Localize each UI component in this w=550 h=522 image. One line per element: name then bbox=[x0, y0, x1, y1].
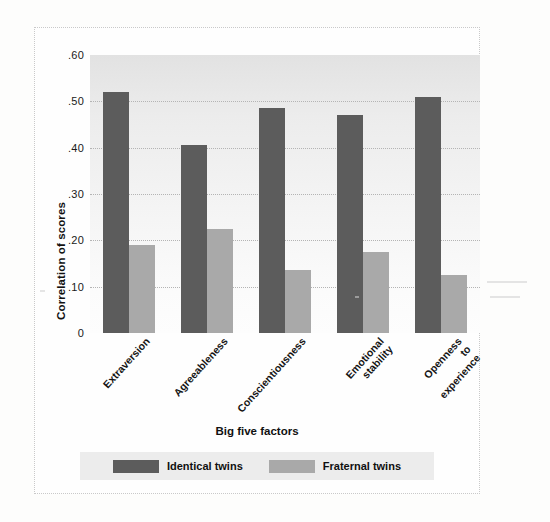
y-tick-label: 0 bbox=[78, 327, 84, 339]
x-tick-label: Extraversion bbox=[100, 335, 152, 391]
bar-identical-twins[interactable] bbox=[259, 108, 285, 333]
scan-artifact bbox=[355, 296, 359, 298]
bar-fraternal-twins[interactable] bbox=[207, 229, 233, 333]
scanned-page: Correlation of scores 0.10.20.30.40.50.6… bbox=[0, 0, 550, 522]
bar-group bbox=[259, 55, 311, 333]
y-axis-title: Correlation of scores bbox=[55, 186, 67, 336]
bar-chart: Correlation of scores 0.10.20.30.40.50.6… bbox=[34, 27, 480, 494]
bar-fraternal-twins[interactable] bbox=[363, 252, 389, 333]
legend-swatch-fraternal-twins bbox=[269, 460, 315, 473]
y-axis: Correlation of scores 0.10.20.30.40.50.6… bbox=[34, 27, 90, 494]
scan-artifact bbox=[40, 290, 45, 292]
bar-identical-twins[interactable] bbox=[181, 145, 207, 333]
legend-label-identical-twins: Identical twins bbox=[167, 460, 243, 472]
y-tick-label: .20 bbox=[68, 234, 84, 246]
scan-artifact bbox=[490, 296, 520, 298]
y-tick-label: .40 bbox=[68, 142, 84, 154]
bar-fraternal-twins[interactable] bbox=[129, 245, 155, 333]
plot-area bbox=[90, 55, 480, 333]
bar-identical-twins[interactable] bbox=[337, 115, 363, 333]
y-tick-label: .50 bbox=[68, 95, 84, 107]
legend-swatch-identical-twins bbox=[113, 460, 159, 473]
bar-group bbox=[103, 55, 155, 333]
x-axis-labels: ExtraversionAgreeablenessConscientiousne… bbox=[90, 333, 480, 423]
bar-fraternal-twins[interactable] bbox=[441, 275, 467, 333]
bar-group bbox=[337, 55, 389, 333]
chart-legend: Identical twins Fraternal twins bbox=[80, 452, 434, 480]
x-tick-label: Conscientiousness bbox=[235, 335, 309, 415]
legend-item-identical-twins: Identical twins bbox=[113, 460, 243, 473]
x-axis-title: Big five factors bbox=[34, 425, 480, 437]
legend-item-fraternal-twins: Fraternal twins bbox=[269, 460, 401, 473]
x-tick-label: Agreeableness bbox=[171, 335, 230, 399]
bar-identical-twins[interactable] bbox=[103, 92, 129, 333]
bar-fraternal-twins[interactable] bbox=[285, 270, 311, 333]
x-tick-label: Emotional stability bbox=[343, 335, 395, 389]
scan-artifact bbox=[487, 281, 527, 283]
x-tick-label: Openness to experience bbox=[418, 335, 482, 401]
y-tick-label: .30 bbox=[68, 188, 84, 200]
y-tick-label: .60 bbox=[68, 49, 84, 61]
y-tick-label: .10 bbox=[68, 281, 84, 293]
legend-label-fraternal-twins: Fraternal twins bbox=[323, 460, 401, 472]
bar-identical-twins[interactable] bbox=[415, 97, 441, 333]
bar-group bbox=[181, 55, 233, 333]
bar-group bbox=[415, 55, 467, 333]
